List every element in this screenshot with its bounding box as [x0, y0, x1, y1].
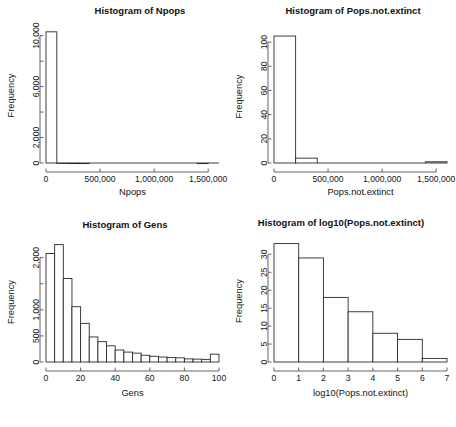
- chart-log10-pops-not-extinct: Histogram of log10(Pops.not.extinct)0510…: [228, 214, 456, 427]
- chart-pops-not-extinct: Histogram of Pops.not.extinct02040608010…: [228, 0, 456, 213]
- y-tick-label: 10,000: [31, 22, 41, 49]
- histogram-figure: Histogram of Npops02,0006,00010,000Frequ…: [0, 0, 456, 427]
- y-tick-label: 500: [31, 329, 41, 344]
- x-tick-label: 2: [321, 373, 326, 383]
- x-tick-label: 1: [296, 373, 301, 383]
- histogram-bar: [167, 358, 176, 362]
- histogram-bar: [296, 158, 318, 163]
- x-axis: 020406080100: [44, 368, 227, 384]
- x-tick-label: 0: [272, 373, 277, 383]
- histogram-bar: [46, 32, 57, 163]
- histogram-bar: [299, 258, 324, 362]
- x-axis: 0500,0001,000,0001,500,000: [44, 169, 228, 185]
- y-axis-label: Frequency: [6, 73, 16, 117]
- x-axis: 01234567: [272, 368, 450, 384]
- histogram-bar: [72, 307, 81, 362]
- histogram-bar: [150, 356, 159, 362]
- x-tick-label: 80: [180, 373, 190, 383]
- y-tick-label: 10: [259, 321, 269, 331]
- histogram-bar: [68, 163, 79, 164]
- histogram-bar: [348, 312, 373, 362]
- histogram-bar: [63, 279, 72, 362]
- y-tick-label: 0: [259, 359, 269, 364]
- x-tick-label: 60: [145, 373, 155, 383]
- y-tick-label: 20: [259, 285, 269, 295]
- histogram-bar: [274, 36, 296, 163]
- y-axis: 05001,0002,000: [31, 247, 43, 365]
- histogram-bar: [115, 350, 124, 362]
- y-tick-label: 0: [259, 160, 269, 165]
- histogram-bar: [202, 359, 211, 362]
- histogram-bar: [46, 253, 55, 362]
- x-axis-label: log10(Pops.not.extinct): [313, 388, 408, 398]
- y-axis: 02,0006,00010,000: [31, 22, 43, 165]
- y-tick-label: 25: [259, 267, 269, 277]
- panel-log10-pops-not-extinct: Histogram of log10(Pops.not.extinct)0510…: [228, 214, 456, 427]
- x-tick-label: 1,000,000: [135, 174, 173, 184]
- histogram-bar: [422, 358, 447, 362]
- x-tick-label: 0: [44, 373, 49, 383]
- panel-gens: Histogram of Gens05001,0002,000Frequency…: [0, 214, 228, 427]
- x-tick-label: 0: [44, 174, 49, 184]
- x-tick-label: 1,500,000: [189, 174, 227, 184]
- y-tick-label: 6,000: [31, 76, 41, 98]
- x-tick-label: 4: [370, 373, 375, 383]
- x-tick-label: 500,000: [313, 174, 344, 184]
- chart-npops: Histogram of Npops02,0006,00010,000Frequ…: [0, 0, 228, 213]
- histogram-bar: [57, 163, 68, 164]
- y-tick-label: 2,000: [31, 127, 41, 149]
- histogram-bar: [124, 352, 133, 362]
- y-tick-label: 60: [259, 85, 269, 95]
- x-tick-label: 7: [445, 373, 450, 383]
- x-tick-label: 6: [420, 373, 425, 383]
- histogram-bar: [398, 339, 423, 362]
- chart-title: Histogram of log10(Pops.not.extinct): [258, 217, 424, 228]
- y-axis-label: Frequency: [234, 74, 244, 118]
- y-axis-label: Frequency: [6, 280, 16, 324]
- y-tick-label: 0: [31, 160, 41, 165]
- chart-title: Histogram of Npops: [95, 5, 186, 16]
- x-axis-label: Pops.not.extinct: [327, 187, 394, 197]
- y-tick-label: 5: [259, 341, 269, 346]
- histogram-bar: [184, 359, 193, 362]
- histogram-bar: [158, 357, 167, 362]
- histogram-bar: [81, 323, 90, 362]
- histogram-bar: [197, 163, 208, 164]
- histogram-bar: [107, 346, 116, 362]
- histogram-bar: [323, 297, 348, 362]
- histogram-bar: [98, 342, 107, 362]
- y-axis: 020406080100: [259, 35, 271, 166]
- x-axis-label: Npops: [119, 187, 146, 197]
- x-tick-label: 0: [272, 174, 277, 184]
- y-tick-label: 0: [31, 359, 41, 364]
- histogram-bar: [89, 337, 98, 362]
- chart-title: Histogram of Gens: [83, 219, 168, 230]
- y-tick-label: 1,000: [31, 299, 41, 321]
- histogram-bar: [425, 162, 447, 163]
- y-tick-label: 30: [259, 249, 269, 259]
- y-tick-label: 20: [259, 134, 269, 144]
- y-axis: 051015202530: [259, 249, 271, 364]
- histogram-bar: [133, 353, 142, 362]
- x-tick-label: 3: [346, 373, 351, 383]
- histogram-bar: [141, 355, 150, 362]
- histogram-bar: [274, 244, 299, 362]
- x-tick-label: 1,500,000: [417, 174, 455, 184]
- y-tick-label: 15: [259, 303, 269, 313]
- x-tick-label: 500,000: [85, 174, 116, 184]
- bars-group: [46, 32, 219, 164]
- histogram-bar: [210, 354, 219, 362]
- bars-group: [46, 245, 219, 362]
- x-tick-label: 1,000,000: [363, 174, 401, 184]
- histogram-bar: [55, 245, 64, 362]
- y-tick-label: 80: [259, 61, 269, 71]
- histogram-bar: [176, 358, 185, 362]
- x-tick-label: 40: [110, 373, 120, 383]
- x-tick-label: 20: [76, 373, 86, 383]
- chart-gens: Histogram of Gens05001,0002,000Frequency…: [0, 214, 228, 427]
- histogram-bar: [78, 163, 89, 164]
- y-tick-label: 100: [259, 35, 269, 50]
- x-axis: 0500,0001,000,0001,500,000: [272, 169, 456, 185]
- y-tick-label: 2,000: [31, 247, 41, 269]
- panel-pops-not-extinct: Histogram of Pops.not.extinct02040608010…: [228, 0, 456, 213]
